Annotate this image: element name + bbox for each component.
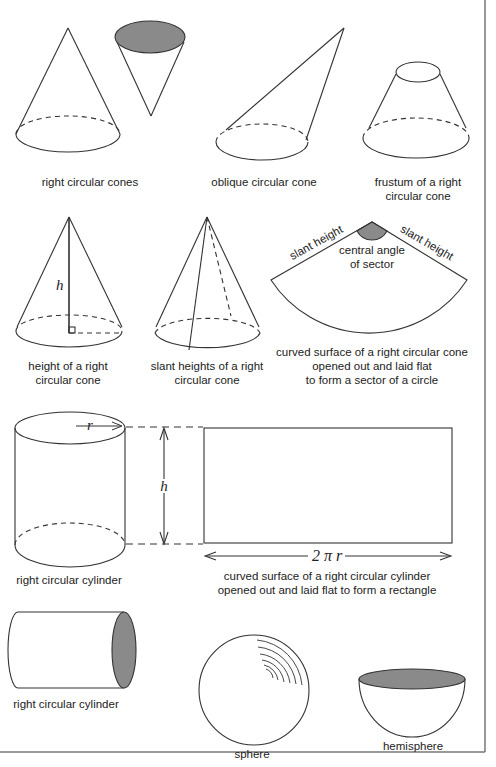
slant-heights-of-right-circular-cone	[155, 217, 260, 350]
caption-frustum-line1: frustum of a right	[375, 176, 462, 188]
caption-sector-line2: opened out and laid flat	[312, 360, 432, 372]
right-circular-cylinder-horizontal	[8, 612, 136, 688]
caption-sector-line3: to form a sector of a circle	[306, 374, 438, 386]
caption-rectangle-line1: curved surface of a right circular cylin…	[224, 570, 431, 582]
caption-cylinder2: right circular cylinder	[13, 698, 119, 710]
caption-slant-line2: circular cone	[174, 374, 239, 386]
caption-hemisphere: hemisphere	[383, 740, 443, 752]
height-of-right-circular-cone	[16, 217, 122, 347]
frustum-of-right-circular-cone	[363, 62, 469, 158]
slant-height-hidden-line	[207, 217, 231, 316]
slant-height-right-label: slant height	[399, 223, 457, 263]
cone-sector-net	[271, 222, 467, 333]
caption-height-line2: circular cone	[35, 374, 100, 386]
central-angle-label-line1: central angle	[339, 244, 405, 256]
sphere	[199, 635, 309, 745]
hemisphere	[359, 669, 465, 737]
oblique-circular-cone	[216, 28, 344, 160]
caption-right-circular-cones: right circular cones	[42, 176, 139, 188]
caption-oblique-circular-cone: oblique circular cone	[211, 176, 316, 188]
right-circular-cone-inverted	[115, 21, 185, 116]
radius-symbol: r	[87, 417, 93, 433]
caption-sector-line1: curved surface of a right circular cone	[276, 346, 468, 358]
caption-height-line1: height of a right	[28, 360, 108, 372]
caption-sphere: sphere	[234, 748, 269, 760]
caption-slant-line1: slant heights of a right	[151, 360, 264, 372]
caption-cylinder1: right circular cylinder	[16, 574, 122, 586]
circumference-label: 2 π r	[312, 547, 343, 564]
central-angle-label-line2: of sector	[350, 258, 394, 270]
cylinder-height-symbol: h	[160, 478, 168, 494]
right-circular-cylinder-upright	[15, 412, 125, 567]
right-angle-marker	[69, 327, 75, 333]
caption-frustum-line2: circular cone	[385, 190, 450, 202]
height-symbol: h	[56, 277, 64, 293]
solids-diagram: right circular cones oblique circular co…	[0, 0, 496, 767]
right-circular-cone-upright	[16, 28, 120, 152]
cylinder-rectangle-net	[204, 428, 452, 543]
caption-rectangle-line2: opened out and laid flat to form a recta…	[218, 584, 437, 596]
central-angle-arc	[357, 222, 387, 240]
